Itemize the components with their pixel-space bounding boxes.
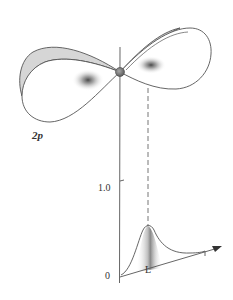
tick-label-origin: 0 [105,271,110,281]
left-lobe [22,59,120,122]
orbital-label: 2p [32,130,43,141]
vertical-axis [120,47,121,283]
radial-probability-curve [121,226,205,276]
nucleus [116,68,125,77]
radial-axis-arrowhead [212,246,222,252]
tick-upper [120,180,124,181]
tick-label-upper: 1.0 [98,183,111,193]
left-lobe-density [72,69,104,91]
radius-marker-label: L [145,265,151,275]
right-lobe-density [136,56,166,74]
orbital-diagram [0,0,233,300]
right-lobe [120,28,211,89]
orbital-figure: 2p 1.0 0 L [0,0,233,300]
